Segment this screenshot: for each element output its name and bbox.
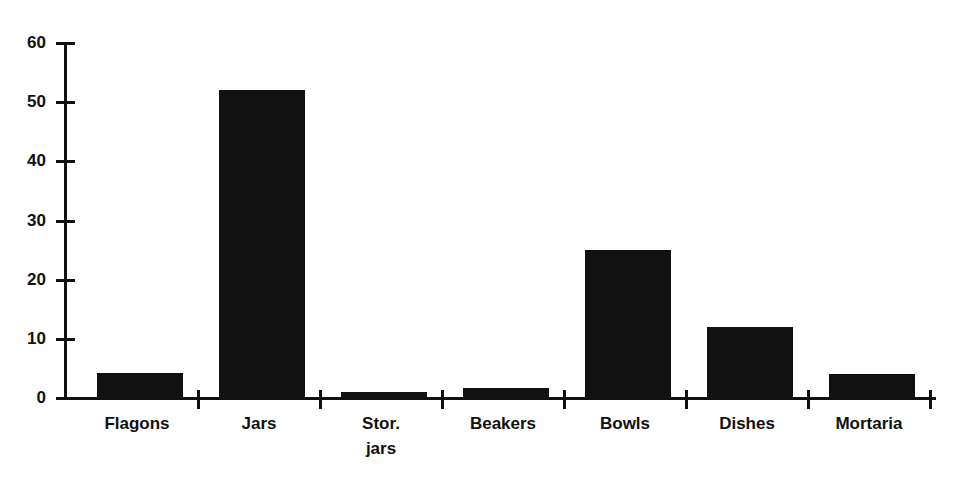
y-axis-tick bbox=[56, 160, 75, 163]
x-axis-tick bbox=[563, 390, 566, 409]
y-axis-tick bbox=[56, 101, 75, 104]
y-axis-tick-label: 10 bbox=[0, 330, 46, 347]
x-axis-category-label: Flagons bbox=[76, 412, 198, 437]
x-axis-category-label: Stor. jars bbox=[320, 412, 442, 461]
bar bbox=[829, 374, 915, 398]
y-axis-tick-label: 50 bbox=[0, 93, 46, 110]
y-axis-tick bbox=[56, 279, 75, 282]
bar bbox=[97, 373, 183, 398]
y-axis-tick bbox=[56, 397, 75, 400]
y-axis-tick-label: 30 bbox=[0, 212, 46, 229]
y-axis-tick-label: 20 bbox=[0, 271, 46, 288]
y-axis-tick bbox=[56, 220, 75, 223]
x-axis-tick bbox=[807, 390, 810, 409]
x-axis-tick bbox=[685, 390, 688, 409]
bar bbox=[219, 90, 305, 398]
x-axis-tick bbox=[441, 390, 444, 409]
x-axis-category-label: Beakers bbox=[442, 412, 564, 437]
x-axis-tick bbox=[197, 390, 200, 409]
y-axis-tick-label: 60 bbox=[0, 34, 46, 51]
bar bbox=[463, 388, 549, 398]
x-axis-category-label: Bowls bbox=[564, 412, 686, 437]
plot-area: 0102030405060 FlagonsJarsStor. jarsBeake… bbox=[0, 0, 963, 489]
x-axis-category-label: Mortaria bbox=[808, 412, 930, 437]
x-axis-category-label: Jars bbox=[198, 412, 320, 437]
bar bbox=[585, 250, 671, 398]
bar bbox=[341, 392, 427, 398]
y-axis-tick bbox=[56, 338, 75, 341]
y-axis-tick bbox=[56, 42, 75, 45]
bar bbox=[707, 327, 793, 398]
y-axis-tick-label: 0 bbox=[0, 389, 46, 406]
x-axis-tick bbox=[319, 390, 322, 409]
x-axis-category-label: Dishes bbox=[686, 412, 808, 437]
y-axis-tick-label: 40 bbox=[0, 152, 46, 169]
bar-chart: 0102030405060 FlagonsJarsStor. jarsBeake… bbox=[0, 0, 963, 489]
x-axis-tick bbox=[929, 390, 932, 409]
